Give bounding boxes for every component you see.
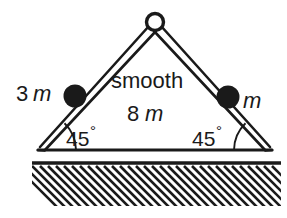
right-mass-bead-icon bbox=[217, 86, 240, 109]
smooth-label-text: smooth bbox=[111, 68, 183, 93]
smooth-surface-label: smooth bbox=[111, 68, 183, 93]
right-mass-label-unit: m bbox=[243, 88, 261, 113]
left-angle-label: 45 ° bbox=[66, 122, 96, 150]
base-length-label: 8 m bbox=[127, 101, 163, 126]
right-angle-label-degree: ° bbox=[216, 122, 222, 139]
base-length-label-unit: m bbox=[145, 101, 163, 126]
base-length-label-number: 8 bbox=[127, 101, 139, 126]
ground-hatching-icon bbox=[16, 166, 287, 208]
physics-diagram-figure: 3 m m smooth 8 m 45 ° 45 ° bbox=[0, 0, 287, 218]
left-mass-label-unit: m bbox=[33, 81, 51, 106]
left-mass-bead-icon bbox=[64, 85, 87, 108]
right-mass-label: m bbox=[243, 88, 261, 113]
apex-pivot-icon bbox=[147, 14, 164, 31]
left-mass-label: 3 m bbox=[16, 81, 51, 106]
left-angle-label-value: 45 bbox=[66, 127, 89, 150]
diagram-canvas: 3 m m smooth 8 m 45 ° 45 ° bbox=[0, 0, 287, 218]
left-angle-label-degree: ° bbox=[90, 122, 96, 139]
right-angle-label-value: 45 bbox=[192, 127, 215, 150]
right-angle-label: 45 ° bbox=[192, 122, 222, 150]
left-mass-label-number: 3 bbox=[16, 81, 28, 106]
